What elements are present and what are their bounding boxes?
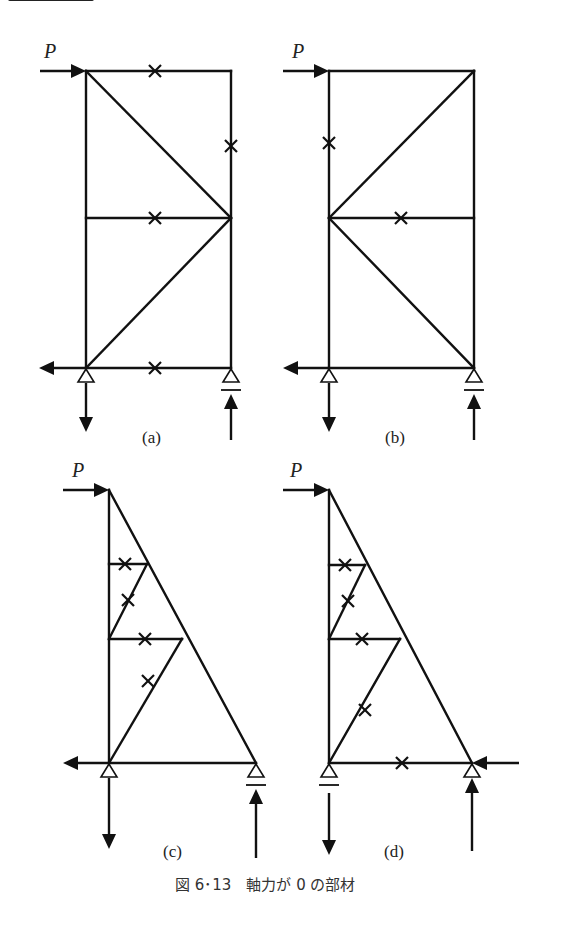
member-inclined-chord xyxy=(329,490,472,763)
panel-label: (d) xyxy=(384,842,404,861)
reaction-down-arrow-icon xyxy=(102,778,116,849)
load-label-p: P xyxy=(71,459,84,481)
member-upper-diagonal xyxy=(86,71,231,218)
header-tab xyxy=(8,0,94,1)
reaction-down-arrow-icon xyxy=(322,383,336,432)
member-lower-diagonal xyxy=(86,218,231,368)
pin-support-icon xyxy=(78,369,94,382)
roller-support-icon xyxy=(321,764,337,777)
load-arrow-icon xyxy=(40,64,86,78)
reaction-up-arrow-icon xyxy=(467,394,481,440)
reaction-down-arrow-icon xyxy=(79,383,93,432)
load-arrow-icon xyxy=(63,483,109,497)
reaction-up-arrow-icon xyxy=(465,778,479,851)
zero-force-marker-icon xyxy=(342,595,354,607)
load-label-p: P xyxy=(43,40,56,62)
member-lower-diagonal xyxy=(329,639,400,763)
pin-support-icon xyxy=(101,764,117,777)
member-lower-diagonal xyxy=(109,639,182,763)
panel-b: P (b) xyxy=(283,40,484,447)
zero-force-marker-icon xyxy=(122,594,134,606)
load-label-p: P xyxy=(289,459,302,481)
reaction-horizontal-arrow-icon xyxy=(63,756,109,770)
pin-support-icon xyxy=(321,369,337,382)
member-inclined-chord xyxy=(109,490,256,763)
panel-c: P (c) xyxy=(63,459,266,861)
reaction-down-arrow-icon xyxy=(322,793,336,855)
roller-support-icon xyxy=(466,369,482,382)
zero-force-marker-icon xyxy=(142,675,154,687)
figure-caption: 図 6･13 軸力が 0 の部材 xyxy=(175,876,355,894)
panel-label: (b) xyxy=(385,428,405,447)
reaction-up-arrow-icon xyxy=(249,789,263,858)
panel-a: P (a) xyxy=(39,40,241,447)
figure-canvas: P (a) xyxy=(0,0,562,929)
reaction-horizontal-arrow-icon xyxy=(283,361,329,375)
load-label-p: P xyxy=(291,40,304,62)
reaction-horizontal-arrow-icon xyxy=(472,756,519,770)
panel-d: P (d) xyxy=(283,459,519,861)
roller-support-icon xyxy=(223,369,239,382)
reaction-up-arrow-icon xyxy=(224,394,238,440)
zero-force-marker-icon xyxy=(359,704,371,716)
member-upper-diagonal xyxy=(329,71,474,218)
roller-support-icon xyxy=(248,764,264,777)
reaction-horizontal-arrow-icon xyxy=(39,361,86,375)
load-arrow-icon xyxy=(283,64,329,78)
member-lower-diagonal xyxy=(329,218,474,368)
panel-label: (a) xyxy=(142,428,161,447)
pin-support-icon xyxy=(464,764,480,777)
load-arrow-icon xyxy=(283,483,329,497)
panel-label: (c) xyxy=(163,842,182,861)
